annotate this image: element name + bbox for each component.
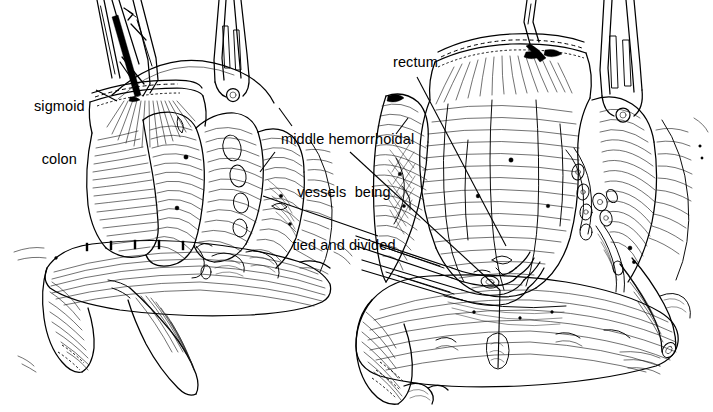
colon-loop-left xyxy=(87,120,159,257)
rectum-cut-edge xyxy=(430,34,592,104)
label-middle-vessels-line1: middle hemorrhoidal xyxy=(281,131,407,149)
label-sigmoid-colon: sigmoid colon xyxy=(34,63,85,204)
forceps-right-upper xyxy=(600,0,642,122)
forceps-left-panel-right xyxy=(214,0,249,102)
label-middle-vessels-line3: tied and divided xyxy=(281,237,407,255)
label-middle-hemorrhoidal-vessels: middle hemorrhoidal vessels being tied a… xyxy=(281,96,407,290)
illustration-canvas: sigmoid colon middle hemorrhoidal vessel… xyxy=(0,0,713,412)
leader-line-vessel-to-floor xyxy=(498,290,500,368)
rectum-body xyxy=(420,98,590,297)
bladder-right-panel xyxy=(356,275,678,404)
sigmoid-colon-stump xyxy=(89,80,206,147)
label-sigmoid-colon-line2: colon xyxy=(34,151,85,169)
label-sigmoid-colon-line1: sigmoid xyxy=(34,98,85,116)
label-middle-vessels-line2: vessels being xyxy=(281,184,407,202)
label-rectum: rectum xyxy=(393,54,438,72)
leader-line-rectum xyxy=(417,77,506,246)
